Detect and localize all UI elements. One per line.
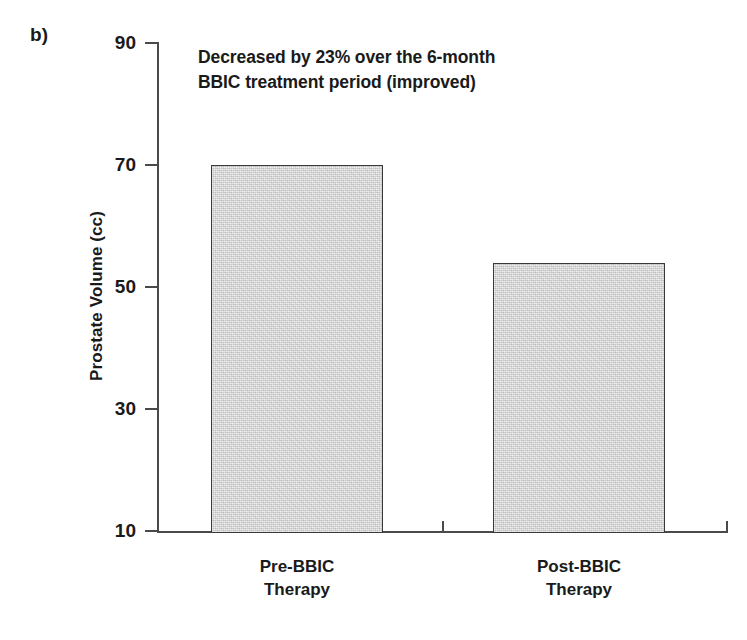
x-category-label-pre-bbic-line2: Therapy <box>177 579 417 602</box>
y-tick-mark-50 <box>145 286 158 288</box>
x-tick-mark-middle <box>442 521 444 533</box>
bar-post-bbic-therapy <box>493 263 665 533</box>
chart-annotation-line1: Decreased by 23% over the 6-month <box>198 45 598 70</box>
y-tick-mark-30 <box>145 408 158 410</box>
bar-pre-bbic-therapy <box>211 165 383 533</box>
y-tick-label-50: 50 <box>78 277 136 296</box>
x-tick-mark-right <box>726 521 728 533</box>
panel-label: b) <box>30 24 48 46</box>
chart-annotation: Decreased by 23% over the 6-month BBIC t… <box>198 45 598 96</box>
y-tick-mark-90 <box>145 42 158 44</box>
y-tick-mark-70 <box>145 164 158 166</box>
y-tick-label-90: 90 <box>78 33 136 52</box>
y-tick-label-70: 70 <box>78 155 136 174</box>
chart-annotation-line2: BBIC treatment period (improved) <box>198 70 598 95</box>
x-tick-mark-left <box>157 521 159 533</box>
x-category-label-post-bbic: Post-BBIC Therapy <box>459 556 699 602</box>
x-category-label-post-bbic-line2: Therapy <box>459 579 699 602</box>
x-category-label-post-bbic-line1: Post-BBIC <box>537 557 621 576</box>
y-tick-label-10: 10 <box>78 521 136 540</box>
y-tick-label-30: 30 <box>78 399 136 418</box>
bar-chart-figure: b) Prostate Volume (cc) 90 70 50 30 10 P… <box>0 0 747 640</box>
x-category-label-pre-bbic-line1: Pre-BBIC <box>260 557 335 576</box>
x-category-label-pre-bbic: Pre-BBIC Therapy <box>177 556 417 602</box>
